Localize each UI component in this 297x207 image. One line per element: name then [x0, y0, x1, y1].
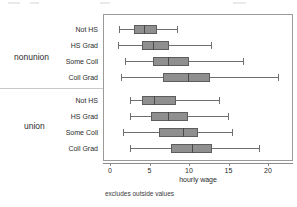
x-tick-label-5: 5 [135, 167, 165, 174]
chart-note: excludes outside values [105, 190, 174, 197]
x-tick-label-15: 15 [214, 167, 244, 174]
x-tick-label-10: 10 [174, 167, 204, 174]
x-axis-title: hourly wage [148, 176, 248, 183]
x-tick-5 [150, 163, 151, 166]
x-tick-10 [189, 163, 190, 166]
x-tick-label-20: 20 [253, 167, 283, 174]
chart-canvas: nonunion union Not HS HS Grad Some Coll … [0, 0, 297, 207]
x-tick-0 [110, 163, 111, 166]
x-tick-20 [268, 163, 269, 166]
x-tick-label-0: 0 [95, 167, 125, 174]
x-tick-15 [229, 163, 230, 166]
